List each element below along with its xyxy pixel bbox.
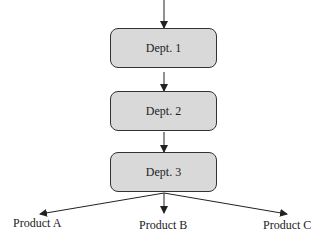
dept-3-box: Dept. 3 (110, 152, 217, 192)
product-b-label: Product B (139, 218, 187, 233)
product-a-label: Product A (13, 216, 61, 231)
product-c-label: Product C (263, 218, 311, 233)
dept-1-box: Dept. 1 (110, 28, 217, 68)
dept-3-label: Dept. 3 (146, 165, 181, 180)
dept-2-label: Dept. 2 (146, 104, 181, 119)
dept-2-box: Dept. 2 (110, 91, 217, 131)
dept-1-label: Dept. 1 (146, 41, 181, 56)
